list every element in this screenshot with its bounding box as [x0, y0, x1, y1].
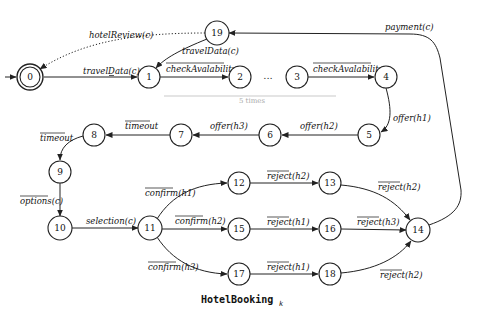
label-16-14: reject(h3) [357, 217, 399, 227]
label-19-1: travelData(c) [182, 46, 239, 56]
ellipsis: ... [263, 70, 273, 81]
label-18-14: reject(h2) [380, 270, 422, 280]
label-14-19: payment(c) [385, 22, 434, 32]
label-5-6: offer(h2) [300, 121, 338, 131]
svg-text:5: 5 [366, 130, 372, 140]
svg-text:16: 16 [324, 224, 336, 234]
label-19-0: hotelReview(c) [89, 30, 153, 40]
state-2: 2 [229, 66, 251, 88]
svg-text:9: 9 [57, 167, 63, 177]
edge-18-14 [341, 241, 411, 273]
state-16: 16 [319, 218, 341, 240]
state-1: 1 [138, 66, 160, 88]
label-8-9: timeout [40, 133, 74, 143]
edge-labels: travelData(c) checkAvalability checkAval… [20, 22, 434, 280]
edge-4-5 [381, 88, 390, 132]
state-19: 19 [205, 21, 229, 45]
state-0: 0 [17, 64, 43, 90]
label-12-13: reject(h2) [267, 171, 309, 181]
label-11-12: confirm(h1) [145, 188, 196, 198]
label-9-10: options(c) [20, 196, 63, 206]
label-3-4: checkAvalability [313, 64, 384, 74]
state-17: 17 [228, 263, 250, 285]
svg-text:0: 0 [27, 72, 33, 82]
svg-text:11: 11 [144, 223, 155, 233]
state-3: 3 [286, 66, 308, 88]
state-4: 4 [375, 66, 397, 88]
state-13: 13 [319, 172, 341, 194]
edge-16-14 [341, 229, 406, 230]
svg-text:14: 14 [412, 225, 424, 235]
svg-text:10: 10 [54, 223, 66, 233]
svg-text:19: 19 [211, 28, 223, 38]
svg-text:13: 13 [324, 178, 336, 188]
label-11-17: confirm(h3) [148, 262, 199, 272]
svg-text:3: 3 [294, 72, 300, 82]
caption: HotelBooking k [201, 294, 284, 308]
label-7-8: timeout [125, 121, 159, 131]
hotel-booking-automaton: 5 times ... travelData(c) checkAvalabili… [0, 0, 485, 323]
state-10: 10 [48, 216, 72, 240]
states: 0 1 2 3 4 19 5 6 7 8 9 10 11 12 13 14 15… [17, 21, 430, 285]
label-0-1: travelData(c) [83, 66, 140, 76]
svg-text:1: 1 [146, 72, 152, 82]
state-5: 5 [358, 124, 380, 146]
label-11-15: confirm(h2) [175, 216, 226, 226]
caption-text: HotelBooking [201, 294, 273, 305]
state-8: 8 [83, 124, 105, 146]
state-12: 12 [228, 172, 250, 194]
state-9: 9 [49, 161, 71, 183]
svg-text:2: 2 [237, 72, 243, 82]
state-15: 15 [228, 218, 250, 240]
svg-text:18: 18 [324, 269, 336, 279]
repeat-bracket: 5 times [164, 96, 336, 105]
svg-text:8: 8 [91, 130, 97, 140]
label-17-18: reject(h1) [267, 262, 309, 272]
svg-text:4: 4 [383, 72, 389, 82]
label-15-16: reject(h1) [267, 217, 309, 227]
state-11: 11 [138, 216, 162, 240]
svg-text:6: 6 [267, 130, 273, 140]
state-14: 14 [406, 218, 430, 242]
label-13-14: reject(h2) [378, 182, 420, 192]
caption-subscript: k [279, 300, 284, 308]
svg-text:12: 12 [233, 178, 244, 188]
svg-text:15: 15 [233, 224, 245, 234]
svg-text:17: 17 [233, 269, 245, 279]
state-6: 6 [259, 124, 281, 146]
label-1-2: checkAvalability [166, 64, 237, 74]
label-6-7: offer(h3) [210, 121, 248, 131]
state-18: 18 [319, 263, 341, 285]
svg-text:7: 7 [178, 130, 184, 140]
repeat-label: 5 times [239, 97, 266, 105]
label-4-5: offer(h1) [393, 113, 431, 123]
label-10-11: selection(c) [86, 216, 136, 226]
state-7: 7 [170, 124, 192, 146]
